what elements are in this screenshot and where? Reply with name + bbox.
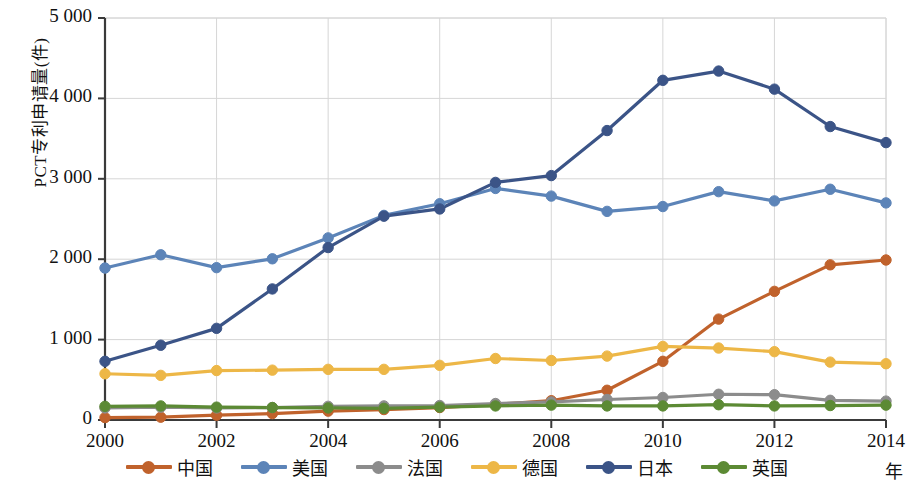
x-tick-label: 2014 xyxy=(846,430,913,452)
data-point-日本 xyxy=(490,177,500,187)
chart-legend: 中国美国法国德国日本英国 xyxy=(0,452,913,481)
data-point-美国 xyxy=(211,262,221,272)
data-point-法国 xyxy=(713,389,723,399)
legend-swatch-icon xyxy=(586,460,632,474)
y-tick-label: 3 000 xyxy=(0,166,92,188)
data-point-日本 xyxy=(211,323,221,333)
data-point-德国 xyxy=(546,355,556,365)
data-point-英国 xyxy=(658,401,668,411)
legend-marker-dot xyxy=(717,461,730,474)
data-point-日本 xyxy=(881,137,891,147)
x-tick-label: 2000 xyxy=(65,430,145,452)
data-point-英国 xyxy=(211,402,221,412)
data-point-英国 xyxy=(379,403,389,413)
legend-item-中国[interactable]: 中国 xyxy=(126,454,213,480)
legend-marker-dot xyxy=(142,461,155,474)
data-point-日本 xyxy=(769,84,779,94)
data-point-德国 xyxy=(769,346,779,356)
data-point-法国 xyxy=(769,389,779,399)
data-point-美国 xyxy=(881,198,891,208)
x-tick-label: 2004 xyxy=(288,430,368,452)
data-point-德国 xyxy=(602,351,612,361)
y-tick-label: 4 000 xyxy=(0,85,92,107)
y-tick-label: 5 000 xyxy=(0,5,92,27)
data-point-美国 xyxy=(267,254,277,264)
data-point-美国 xyxy=(546,191,556,201)
data-point-日本 xyxy=(546,170,556,180)
legend-swatch-icon xyxy=(471,460,517,474)
legend-item-德国[interactable]: 德国 xyxy=(471,454,558,480)
data-point-日本 xyxy=(435,204,445,214)
y-tick-label: 2 000 xyxy=(0,246,92,268)
data-point-英国 xyxy=(602,401,612,411)
legend-item-日本[interactable]: 日本 xyxy=(586,454,673,480)
data-point-日本 xyxy=(602,125,612,135)
legend-item-法国[interactable]: 法国 xyxy=(356,454,443,480)
data-point-德国 xyxy=(323,364,333,374)
legend-marker-dot xyxy=(487,461,500,474)
data-point-英国 xyxy=(435,402,445,412)
data-point-美国 xyxy=(769,196,779,206)
data-point-美国 xyxy=(825,184,835,194)
legend-marker-dot xyxy=(602,461,615,474)
legend-label: 中国 xyxy=(177,454,213,480)
data-point-中国 xyxy=(713,314,723,324)
data-point-英国 xyxy=(100,401,110,411)
legend-swatch-icon xyxy=(241,460,287,474)
data-point-德国 xyxy=(156,370,166,380)
data-point-美国 xyxy=(156,250,166,260)
data-point-英国 xyxy=(881,400,891,410)
series-line-日本 xyxy=(105,71,886,361)
chart-figure: PCT专利申请量(件) 01 0002 0003 0004 0005 000 2… xyxy=(0,0,913,481)
x-tick-label: 2002 xyxy=(177,430,257,452)
data-point-美国 xyxy=(100,263,110,273)
data-point-英国 xyxy=(267,402,277,412)
chart-plot-area xyxy=(0,0,913,481)
data-point-德国 xyxy=(713,343,723,353)
data-point-德国 xyxy=(435,360,445,370)
legend-label: 日本 xyxy=(637,454,673,480)
data-point-日本 xyxy=(323,242,333,252)
series-points xyxy=(100,66,891,423)
legend-swatch-icon xyxy=(126,460,172,474)
data-point-德国 xyxy=(881,359,891,369)
x-tick-label: 2010 xyxy=(623,430,703,452)
data-point-英国 xyxy=(156,401,166,411)
x-axis-unit-label: 年 xyxy=(885,457,903,481)
data-point-日本 xyxy=(379,211,389,221)
data-point-德国 xyxy=(658,341,668,351)
legend-marker-dot xyxy=(257,461,270,474)
data-point-日本 xyxy=(658,75,668,85)
data-point-英国 xyxy=(323,403,333,413)
legend-label: 美国 xyxy=(292,454,328,480)
legend-marker-dot xyxy=(372,461,385,474)
legend-swatch-icon xyxy=(701,460,747,474)
legend-item-美国[interactable]: 美国 xyxy=(241,454,328,480)
x-tick-label: 2012 xyxy=(734,430,814,452)
data-point-日本 xyxy=(100,356,110,366)
legend-item-英国[interactable]: 英国 xyxy=(701,454,788,480)
data-point-美国 xyxy=(658,201,668,211)
data-point-日本 xyxy=(156,340,166,350)
data-point-日本 xyxy=(825,121,835,131)
data-point-美国 xyxy=(713,186,723,196)
data-point-英国 xyxy=(769,401,779,411)
data-point-德国 xyxy=(100,369,110,379)
data-point-中国 xyxy=(100,412,110,422)
data-point-中国 xyxy=(658,356,668,366)
data-point-日本 xyxy=(713,66,723,76)
data-point-中国 xyxy=(825,260,835,270)
y-tick-label: 1 000 xyxy=(0,327,92,349)
data-point-中国 xyxy=(769,286,779,296)
legend-label: 英国 xyxy=(752,454,788,480)
data-point-英国 xyxy=(713,400,723,410)
data-point-中国 xyxy=(881,255,891,265)
data-point-美国 xyxy=(323,233,333,243)
data-point-英国 xyxy=(825,400,835,410)
data-point-德国 xyxy=(490,353,500,363)
data-point-英国 xyxy=(490,401,500,411)
series-lines xyxy=(105,71,886,418)
data-point-德国 xyxy=(379,364,389,374)
data-point-美国 xyxy=(602,206,612,216)
data-point-日本 xyxy=(267,284,277,294)
